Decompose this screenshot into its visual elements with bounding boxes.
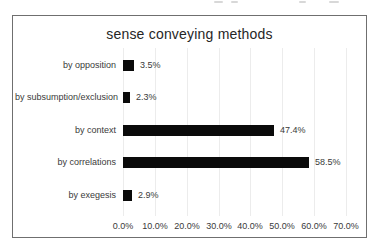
- category-label: by correlations: [15, 157, 116, 168]
- bar-5: [123, 190, 132, 201]
- value-label: 47.4%: [280, 125, 306, 136]
- bar-4: [123, 157, 309, 168]
- category-label: by context: [15, 125, 116, 136]
- x-tick-label: 30.0%: [206, 221, 232, 231]
- chart-area: sense conveying methods 3.5%2.3%47.4%58.…: [12, 15, 367, 238]
- plot-area: 3.5%2.3%47.4%58.5%2.9%: [123, 48, 355, 218]
- bar-3: [123, 125, 274, 136]
- chart-screenshot: sense conveying methods 3.5%2.3%47.4%58.…: [0, 0, 381, 249]
- x-axis: 0.0%10.0%20.0%30.0%40.0%50.0%60.0%70.0%: [123, 221, 355, 233]
- value-label: 58.5%: [315, 157, 341, 168]
- x-tick-label: 70.0%: [333, 221, 359, 231]
- category-label: by exegesis: [15, 190, 116, 201]
- x-tick-label: 0.0%: [113, 221, 134, 231]
- gridline: [346, 48, 347, 216]
- cropped-text-artifact: [231, 1, 238, 3]
- bar-2: [123, 92, 130, 103]
- value-label: 2.9%: [138, 190, 159, 201]
- cropped-text-artifact: [214, 1, 223, 3]
- category-label: by subsumption/exclusion: [15, 92, 116, 103]
- x-tick-label: 20.0%: [174, 221, 200, 231]
- cropped-text-artifact: [299, 1, 306, 3]
- x-tick-label: 60.0%: [301, 221, 327, 231]
- bar-1: [123, 60, 134, 71]
- gridline: [314, 48, 315, 216]
- cropped-text-artifact: [329, 1, 339, 3]
- x-tick-label: 50.0%: [269, 221, 295, 231]
- value-label: 3.5%: [140, 60, 161, 71]
- chart-title: sense conveying methods: [13, 26, 366, 42]
- x-tick-label: 10.0%: [142, 221, 168, 231]
- x-tick-label: 40.0%: [237, 221, 263, 231]
- category-label: by opposition: [15, 60, 116, 71]
- value-label: 2.3%: [136, 92, 157, 103]
